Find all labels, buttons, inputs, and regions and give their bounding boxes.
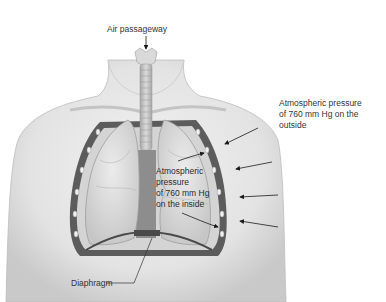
label-inside-pressure-1: Atmospheric — [156, 166, 203, 176]
label-inside-pressure-2: pressure — [156, 177, 189, 187]
lung-pressure-diagram — [0, 0, 386, 302]
label-outside-pressure-2: of 760 mm Hg on the — [279, 109, 358, 119]
label-outside-pressure-3: outside — [279, 120, 306, 130]
label-outside-pressure-1: Atmospheric pressure — [279, 98, 362, 108]
label-air-passageway: Air passageway — [107, 24, 167, 34]
label-diaphragm: Diaphragm — [71, 278, 113, 288]
label-inside-pressure-4: on the inside — [156, 199, 204, 209]
label-inside-pressure-3: of 760 mm Hg — [156, 188, 209, 198]
